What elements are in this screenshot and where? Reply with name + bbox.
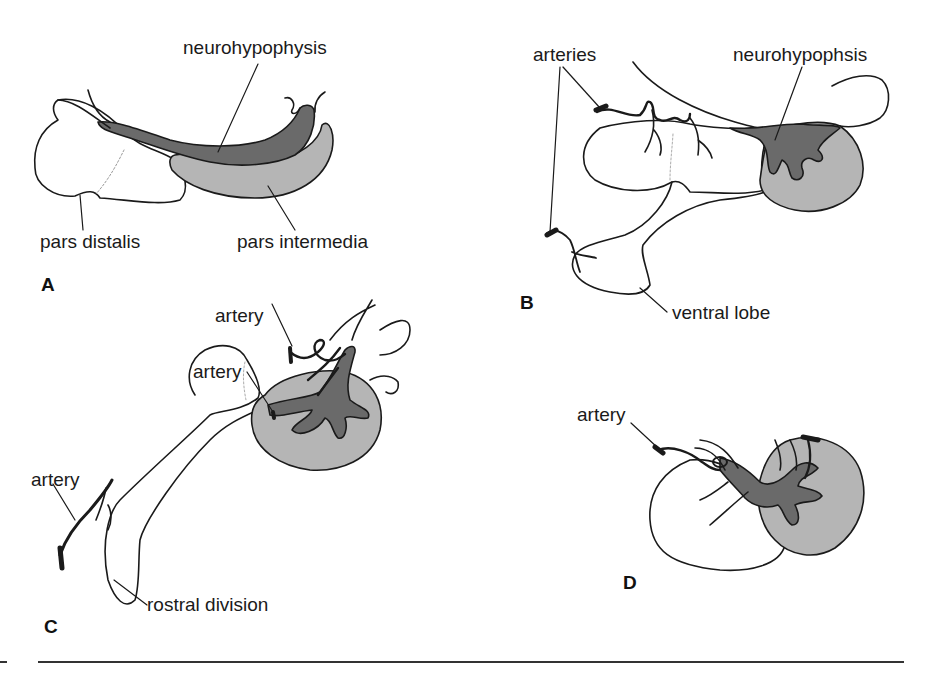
label-artery-c-mid: artery — [193, 362, 242, 381]
panel-d-drawing — [650, 437, 864, 570]
bottom-rule — [38, 661, 904, 663]
panel-letter-b: B — [520, 293, 534, 312]
label-rostral-division: rostral division — [147, 595, 268, 614]
label-neurohypophysis-a: neurohypophysis — [183, 38, 327, 57]
label-artery-d: artery — [577, 405, 626, 424]
panel-letter-d: D — [623, 573, 637, 592]
label-neurohypophsis-b: neurohypophsis — [733, 45, 867, 64]
panel-letter-a: A — [41, 275, 55, 294]
panel-letter-c: C — [44, 617, 58, 636]
label-artery-c-top: artery — [215, 306, 264, 325]
label-pars-intermedia: pars intermedia — [237, 232, 368, 251]
label-pars-distalis: pars distalis — [40, 232, 140, 251]
panel-c-drawing — [60, 300, 410, 604]
label-arteries: arteries — [533, 45, 596, 64]
label-ventral-lobe: ventral lobe — [672, 303, 770, 322]
label-artery-c-left: artery — [31, 470, 80, 489]
panel-a-drawing — [35, 90, 333, 203]
bottom-rule-stub — [0, 661, 7, 663]
panel-b-drawing — [547, 62, 889, 294]
pituitary-diagram-artwork — [0, 0, 927, 675]
